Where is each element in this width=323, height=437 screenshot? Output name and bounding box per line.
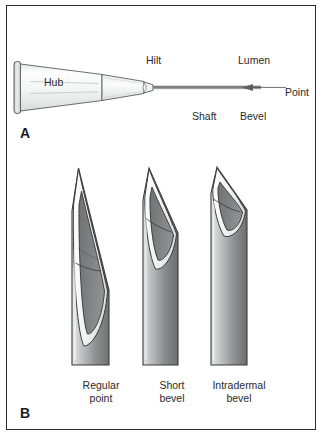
panel-b-bevel-drawings [6,5,316,430]
needle-intradermal-bevel [211,167,247,365]
caption-line-2: bevel [200,392,278,405]
figure-needle-anatomy: Hub Hilt Lumen Point Shaft Bevel A [0,0,323,437]
needle-regular-point [72,168,109,365]
caption-line-1: Intradermal [200,379,278,392]
caption-line-2: point [62,392,140,405]
caption-intradermal-bevel: Intradermal bevel [200,379,278,404]
needle-short-bevel [143,168,178,365]
panel-b-letter: B [20,405,30,421]
caption-regular-point: Regular point [62,379,140,404]
caption-line-1: Regular [62,379,140,392]
